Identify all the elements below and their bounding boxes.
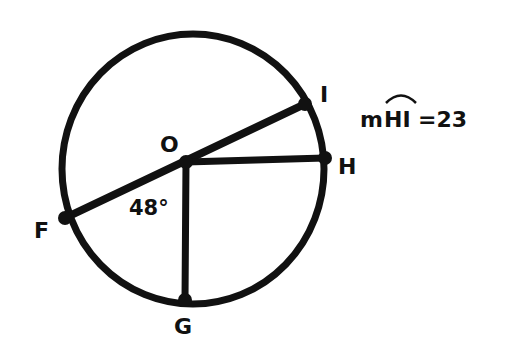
arc-symbol-icon <box>386 96 416 104</box>
point-I <box>298 97 312 111</box>
label-I: I <box>320 82 328 107</box>
point-O <box>179 155 193 169</box>
circle-diagram: O I H F G 48° m HI =23 <box>0 0 505 362</box>
circle <box>62 34 324 304</box>
point-F <box>58 211 72 225</box>
arc-name: HI <box>384 107 411 132</box>
point-G <box>178 293 192 307</box>
label-O: O <box>160 132 179 157</box>
arc-value: =23 <box>418 107 467 132</box>
label-G: G <box>174 314 192 339</box>
arc-prefix: m <box>360 107 383 132</box>
radius-OH <box>186 158 325 162</box>
point-H <box>318 151 332 165</box>
angle-label: 48° <box>129 196 169 220</box>
radius-OG <box>185 162 186 300</box>
label-F: F <box>34 218 49 243</box>
label-H: H <box>338 154 356 179</box>
